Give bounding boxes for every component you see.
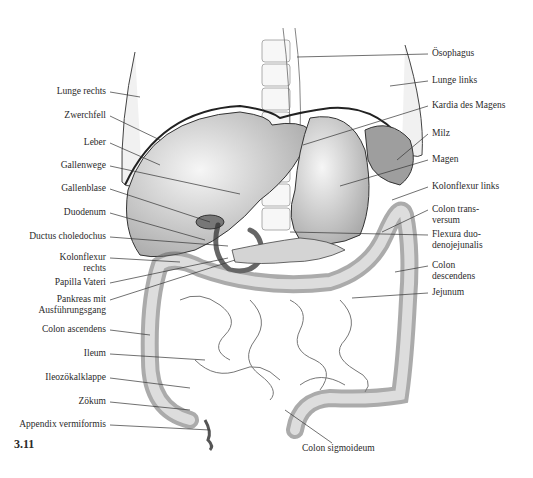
label-duodenum: Duodenum [64,207,106,218]
label-ileum: Ileum [84,348,106,359]
label-pankreas-mit-ausführungsgang: Pankreas mitAusführungsgang [38,294,106,316]
label-gallenwege: Gallenwege [61,160,106,171]
label-flexura-duo-denojejunalis: Flexura duo-denojejunalis [432,229,483,251]
label-ileozökalklappe: Ileozökalklappe [45,372,106,383]
label-papilla-vateri: Papilla Vateri [55,277,106,288]
label-colon-ascendens: Colon ascendens [42,324,106,335]
label-colon-descendens: Colondescendens [432,260,475,282]
label-appendix-vermiformis: Appendix vermiformis [19,419,106,430]
label-lunge-links: Lunge links [432,75,477,86]
label-ösophagus: Ösophagus [432,48,474,59]
appendix [205,420,212,450]
label-zwerchfell: Zwerchfell [64,110,106,121]
label-colon-trans-versum: Colon trans-versum [432,204,479,226]
label-jejunum: Jejunum [432,287,464,298]
label-kolonflexur-rechts: Kolonflexurrechts [60,252,106,274]
leader-line [392,187,428,200]
label-gallenblase: Gallenblase [61,183,106,194]
figure-number: 3.11 [14,437,34,452]
small-intestine [180,296,368,400]
label-kardia-des-magens: Kardia des Magens [432,100,505,111]
label-colon-sigmoideum: Colon sigmoideum [302,443,375,454]
label-magen: Magen [432,154,458,165]
label-leber: Leber [84,137,106,148]
label-kolonflexur-links: Kolonflexur links [432,181,499,192]
label-lunge-rechts: Lunge rechts [57,86,106,97]
label-ductus-choledochus: Ductus choledochus [29,231,106,242]
label-zökum: Zökum [79,396,106,407]
label-milz: Milz [432,128,450,139]
